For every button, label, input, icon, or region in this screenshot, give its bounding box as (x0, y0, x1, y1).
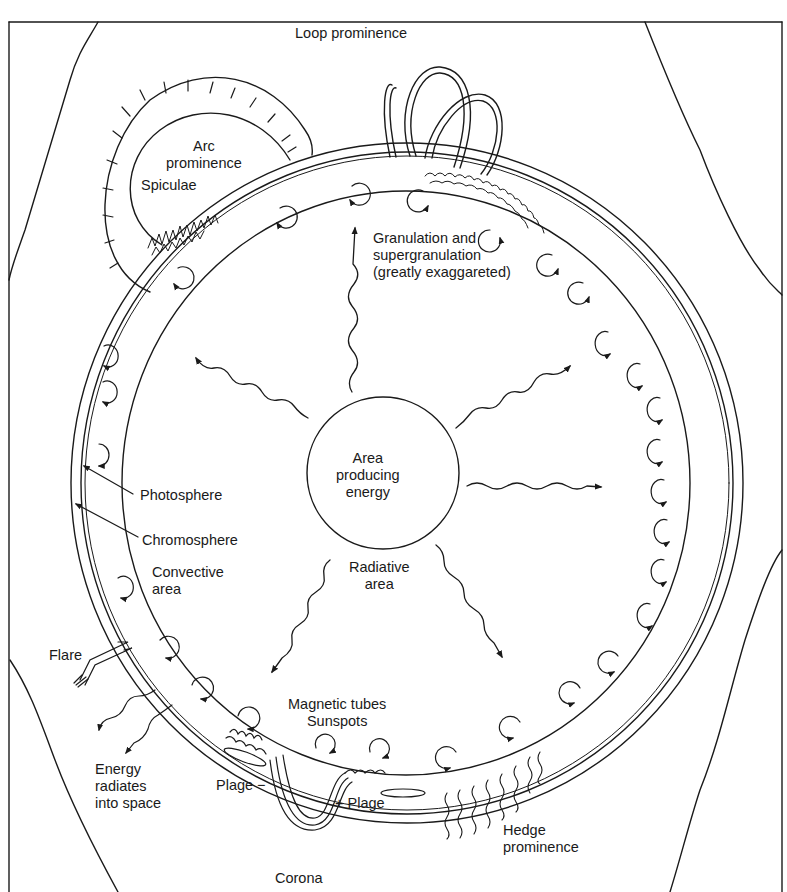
label-loop-prominence: Loop prominence (295, 25, 407, 42)
label-plage-plus: + Plage (335, 795, 385, 812)
label-spiculae: Spiculae (141, 177, 197, 194)
label-plage-minus: Plage − (216, 777, 266, 794)
label-magnetic-tubes: Magnetic tubes Sunspots (288, 696, 386, 730)
label-flare: Flare (49, 647, 82, 664)
sun-structure-diagram (0, 0, 787, 892)
label-corona: Corona (275, 870, 323, 887)
arc-prominence (103, 77, 312, 292)
label-radiative-area: Radiative area (349, 559, 409, 593)
loop-prominence (384, 67, 502, 175)
label-chromosphere: Chromosphere (142, 532, 238, 549)
label-hedge-prominence: Hedge prominence (503, 822, 579, 856)
label-convective-area: Convective area (152, 564, 224, 598)
label-granulation: Granulation and supergranulation (greatl… (373, 230, 511, 281)
plage-right (381, 789, 425, 797)
label-core: Area producing energy (336, 450, 400, 501)
label-energy-radiates: Energy radiates into space (95, 761, 161, 812)
label-photosphere: Photosphere (140, 487, 222, 504)
label-arc-prominence: Arc prominence (166, 138, 242, 172)
